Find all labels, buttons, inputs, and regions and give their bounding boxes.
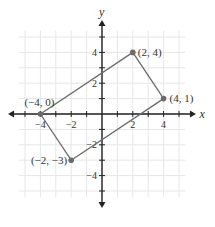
y-tick-label: −4 (86, 170, 97, 181)
x-tick-label: 4 (161, 119, 166, 130)
point-label: (−4, 0) (24, 96, 54, 109)
x-axis-arrow-right (190, 111, 196, 118)
data-point (161, 96, 167, 102)
point-label: (4, 1) (170, 92, 194, 105)
y-axis-arrow-up (99, 20, 106, 26)
points: (−4, 0)(2, 4)(4, 1)(−2, −3) (24, 46, 193, 167)
data-point (68, 157, 74, 163)
point-label: (−2, −3) (31, 154, 68, 167)
axes (8, 20, 196, 208)
y-axis-label: y (98, 5, 105, 19)
x-tick-label: −2 (66, 119, 77, 130)
y-tick-label: 4 (92, 47, 97, 58)
data-point (38, 111, 44, 117)
y-axis-arrow-down (99, 202, 106, 208)
x-axis-label: x (198, 107, 205, 121)
data-point (130, 50, 136, 56)
coordinate-plane: −4−22442−2−4 (−4, 0)(2, 4)(4, 1)(−2, −3)… (0, 0, 215, 227)
point-label: (2, 4) (138, 46, 162, 59)
x-axis-arrow-left (8, 111, 14, 118)
